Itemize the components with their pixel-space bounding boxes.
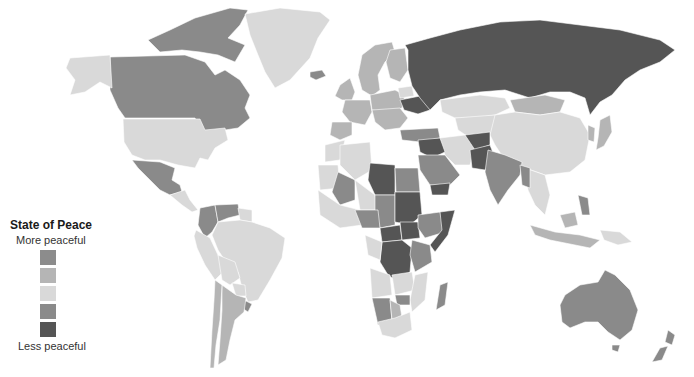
legend-less-peaceful-label: Less peaceful <box>18 340 106 352</box>
country-mexico[interactable] <box>132 160 182 195</box>
country-egypt[interactable] <box>395 168 420 192</box>
country-east-africa[interactable] <box>410 240 432 272</box>
country-alaska[interactable] <box>66 55 112 95</box>
country-argentina[interactable] <box>218 285 246 365</box>
country-western-europe[interactable] <box>342 100 372 125</box>
legend-swatch-level-3 <box>40 286 56 301</box>
country-png[interactable] <box>600 230 632 245</box>
country-japan[interactable] <box>596 115 612 150</box>
country-australia[interactable] <box>560 270 638 352</box>
legend-swatch-level-4 <box>40 304 56 319</box>
legend-title: State of Peace <box>10 218 106 232</box>
country-iberia[interactable] <box>330 122 352 140</box>
legend-more-peaceful-label: More peaceful <box>16 234 106 246</box>
country-madagascar[interactable] <box>436 282 448 310</box>
country-canada-arctic[interactable] <box>148 8 248 62</box>
country-mongolia[interactable] <box>510 95 565 115</box>
country-gabon-congo[interactable] <box>365 235 382 260</box>
country-indonesia[interactable] <box>530 212 600 248</box>
country-algeria[interactable] <box>340 142 372 180</box>
country-yemen[interactable] <box>430 183 450 195</box>
country-south-sudan[interactable] <box>400 222 420 240</box>
country-venezuela[interactable] <box>215 204 240 222</box>
country-libya[interactable] <box>368 163 395 195</box>
country-iceland[interactable] <box>310 70 326 80</box>
legend-swatches <box>40 250 106 337</box>
country-new-zealand[interactable] <box>652 330 675 362</box>
country-belarus[interactable] <box>398 86 414 98</box>
legend-swatch-level-2 <box>40 268 56 283</box>
country-myanmar[interactable] <box>520 165 530 188</box>
legend-swatch-level-5 <box>40 322 56 337</box>
country-philippines[interactable] <box>578 195 590 215</box>
country-uk-ireland[interactable] <box>335 78 355 100</box>
legend-swatch-level-1 <box>40 250 56 265</box>
legend: State of Peace More peaceful Less peacef… <box>6 218 106 352</box>
country-central-america[interactable] <box>170 190 198 212</box>
country-car[interactable] <box>380 225 402 242</box>
country-finland[interactable] <box>386 48 408 82</box>
country-balkans[interactable] <box>372 108 408 130</box>
country-korea[interactable] <box>588 125 595 142</box>
